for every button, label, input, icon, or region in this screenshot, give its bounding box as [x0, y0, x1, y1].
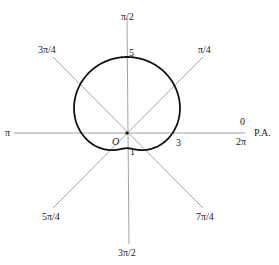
label-r-3: 3 [176, 138, 181, 148]
limacon-curve [74, 57, 180, 150]
origin-point [125, 131, 128, 134]
label-7pi-over-4: 7π/4 [196, 212, 214, 222]
polar-diagram: π/2 3π/4 π/4 π 0 2π P.A. 5π/4 3π/2 7π/4 … [0, 0, 279, 265]
label-pi-over-4: π/4 [198, 45, 211, 55]
label-polar-axis: P.A. [254, 128, 271, 138]
label-origin: O [112, 137, 119, 147]
label-3pi-over-4: 3π/4 [38, 45, 56, 55]
label-zero: 0 [240, 117, 245, 127]
polar-graph [0, 0, 279, 265]
label-pi: π [5, 128, 10, 138]
label-5pi-over-4: 5π/4 [42, 212, 60, 222]
label-2pi: 2π [236, 137, 246, 147]
label-r-1: 1 [130, 147, 135, 157]
label-pi-over-2: π/2 [121, 12, 134, 22]
label-3pi-over-2: 3π/2 [118, 248, 136, 258]
label-r-5: 5 [129, 48, 134, 58]
